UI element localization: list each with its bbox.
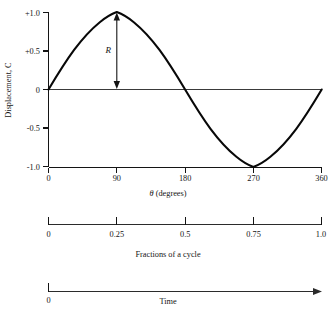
fractions-label-2: 0.25	[110, 230, 125, 239]
time-arrowhead-icon	[313, 288, 322, 295]
x-tick-label-1: 0	[46, 174, 50, 183]
y-tick-label-5: -1.0	[27, 163, 40, 172]
amplitude-label: R	[105, 45, 112, 55]
x-axis-title: θ (degrees)	[149, 189, 186, 198]
x-axis-ticks	[49, 168, 322, 174]
svg-text:θ (degrees): θ (degrees)	[149, 189, 186, 198]
time-origin-label: 0	[46, 296, 50, 305]
figure-canvas: +1.0 +0.5 0 -0.5 -1.0 0 90 180 270 360	[0, 0, 336, 315]
time-axis: 0 Time	[46, 283, 322, 306]
amplitude-annotation: R	[105, 13, 121, 90]
fractions-label-5: 1.0	[316, 230, 326, 239]
fractions-label-1: 0	[46, 230, 50, 239]
x-tick-label-2: 90	[113, 174, 121, 183]
time-axis-caption: Time	[159, 297, 177, 306]
fractions-scale-caption: Fractions of a cycle	[135, 250, 201, 259]
y-tick-label-4: -0.5	[27, 124, 40, 133]
fractions-label-4: 0.75	[246, 230, 261, 239]
fractions-label-3: 0.5	[180, 230, 190, 239]
y-axis-tick-labels: +1.0 +0.5 0 -0.5 -1.0	[25, 9, 40, 172]
y-tick-label-1: +1.0	[25, 9, 40, 18]
fractions-of-cycle-scale: 0 0.25 0.5 0.75 1.0 Fractions of a cycle	[46, 217, 326, 259]
sine-wave-figure: +1.0 +0.5 0 -0.5 -1.0 0 90 180 270 360	[0, 0, 336, 315]
x-tick-label-3: 180	[179, 174, 191, 183]
x-tick-label-4: 270	[247, 174, 259, 183]
y-tick-label-3: 0	[36, 86, 40, 95]
y-axis-title: Displacement, C	[4, 62, 13, 118]
fractions-scale-ticks	[49, 217, 322, 225]
main-plot: +1.0 +0.5 0 -0.5 -1.0 0 90 180 270 360	[4, 9, 328, 199]
x-tick-label-5: 360	[315, 174, 327, 183]
y-tick-label-2: +0.5	[25, 47, 40, 56]
x-axis-title-rest: (degrees)	[154, 189, 187, 198]
fractions-scale-labels: 0 0.25 0.5 0.75 1.0	[46, 230, 326, 239]
x-axis-tick-labels: 0 90 180 270 360	[46, 174, 327, 183]
amplitude-arrowhead-down	[114, 81, 120, 89]
